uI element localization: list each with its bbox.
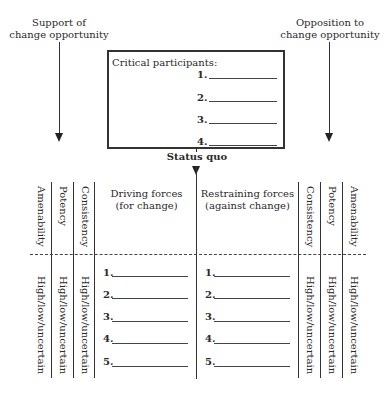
- driving-blank-3[interactable]: [112, 321, 188, 322]
- left-header-potency: Potency: [57, 186, 69, 226]
- left-value-amenability: High/low/uncertain: [35, 276, 47, 374]
- driving-blank-5[interactable]: [112, 366, 188, 367]
- opposition-arrow-shaft: [329, 42, 330, 134]
- right-header-amenability: Amenability: [348, 186, 360, 247]
- driving-blank-1[interactable]: [112, 276, 188, 277]
- opposition-arrow-icon: [325, 133, 333, 142]
- participant-blank-4[interactable]: [209, 145, 277, 146]
- participant-blank-1[interactable]: [209, 78, 277, 79]
- right-col-divider-1: [298, 182, 299, 378]
- header-separator: [30, 254, 366, 255]
- right-header-potency: Potency: [326, 186, 338, 226]
- right-header-consistency: Consistency: [304, 186, 316, 247]
- restraining-blank-4[interactable]: [214, 343, 290, 344]
- status-quo-label: Status quo: [156, 151, 238, 163]
- driving-blank-2[interactable]: [112, 298, 188, 299]
- opposition-label-line2: change opportunity: [278, 29, 382, 41]
- restraining-forces-header: Restraining forces (against change): [197, 188, 298, 212]
- support-arrow-shaft: [59, 42, 60, 134]
- driving-number-2: 2.: [103, 289, 113, 301]
- restraining-forces-title: Restraining forces: [197, 188, 298, 200]
- participant-blank-2[interactable]: [209, 101, 277, 102]
- right-value-potency: High/low/uncertain: [326, 276, 338, 374]
- restraining-number-2: 2.: [205, 289, 215, 301]
- restraining-forces-subtitle: (against change): [197, 200, 298, 212]
- participant-number-3: 3.: [197, 114, 207, 126]
- left-header-consistency: Consistency: [79, 186, 91, 247]
- right-col-divider-2: [320, 182, 321, 378]
- left-col-divider-2: [73, 182, 74, 378]
- right-value-amenability: High/low/uncertain: [348, 276, 360, 374]
- driving-forces-subtitle: (for change): [97, 200, 196, 212]
- support-label: Support of change opportunity: [7, 17, 111, 41]
- right-col-divider-3: [342, 182, 343, 378]
- left-value-consistency: High/low/uncertain: [79, 276, 91, 374]
- left-col-divider-3: [94, 182, 95, 378]
- driving-number-1: 1.: [103, 267, 113, 279]
- restraining-blank-3[interactable]: [214, 321, 290, 322]
- restraining-blank-1[interactable]: [214, 276, 290, 277]
- driving-forces-header: Driving forces (for change): [97, 188, 196, 212]
- driving-blank-4[interactable]: [112, 343, 188, 344]
- participant-number-2: 2.: [197, 92, 207, 104]
- left-value-potency: High/low/uncertain: [57, 276, 69, 374]
- restraining-number-1: 1.: [205, 267, 215, 279]
- participant-number-1: 1.: [197, 69, 207, 81]
- right-value-consistency: High/low/uncertain: [304, 276, 316, 374]
- driving-forces-title: Driving forces: [97, 188, 196, 200]
- left-col-divider-1: [51, 182, 52, 378]
- support-arrow-icon: [55, 133, 63, 142]
- critical-participants-title: Critical participants:: [112, 57, 217, 69]
- restraining-blank-2[interactable]: [214, 298, 290, 299]
- opposition-label: Opposition to change opportunity: [278, 17, 382, 41]
- support-label-line1: Support of: [7, 17, 111, 29]
- left-header-amenability: Amenability: [35, 186, 47, 247]
- opposition-label-line1: Opposition to: [278, 17, 382, 29]
- support-label-line2: change opportunity: [7, 29, 111, 41]
- participant-number-4: 4.: [197, 136, 207, 148]
- restraining-blank-5[interactable]: [214, 366, 290, 367]
- critical-participants-box: Critical participants: 1. 2. 3. 4.: [107, 50, 285, 149]
- participant-blank-3[interactable]: [209, 123, 277, 124]
